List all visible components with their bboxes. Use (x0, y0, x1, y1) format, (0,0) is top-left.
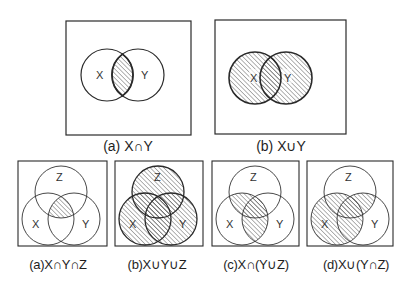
label-x: X (129, 218, 137, 230)
diagram-bottom-d-x-union-y-intersect-z: Z X Y (307, 161, 393, 246)
caption-top-a: (a) X∩Y (103, 138, 153, 154)
diagram-bottom-b-triple-union: Z X Y (115, 161, 203, 246)
venn-diagram-figure: X Y X Y Z X Y Z (0, 0, 409, 289)
label-x: X (321, 218, 329, 230)
label-y: Y (371, 218, 379, 230)
diagram-top-b-union: X Y (215, 20, 346, 134)
label-y: Y (82, 218, 90, 230)
caption-bottom-c: (c)X∩(Y∪Z) (223, 257, 288, 272)
label-x: X (250, 72, 258, 84)
label-x: X (96, 69, 104, 81)
label-z: Z (154, 171, 161, 183)
label-y: Y (141, 69, 149, 81)
label-x: X (226, 218, 234, 230)
label-y: Y (284, 72, 292, 84)
label-z: Z (56, 171, 63, 183)
caption-bottom-d: (d)X∪(Y∩Z) (323, 257, 389, 272)
caption-top-b: (b) X∪Y (256, 138, 306, 154)
label-y: Y (276, 218, 284, 230)
label-x: X (32, 218, 40, 230)
diagram-bottom-c-x-intersect-y-union-z: Z X Y (212, 161, 299, 246)
caption-bottom-a: (a)X∩Y∩Z (29, 257, 86, 272)
caption-bottom-b: (b)X∪Y∪Z (128, 257, 187, 272)
label-z: Z (345, 171, 352, 183)
diagram-top-a-intersection: X Y (66, 21, 191, 135)
label-y: Y (179, 218, 187, 230)
label-z: Z (250, 171, 257, 183)
diagram-bottom-a-triple-intersection: Z X Y (18, 161, 107, 246)
